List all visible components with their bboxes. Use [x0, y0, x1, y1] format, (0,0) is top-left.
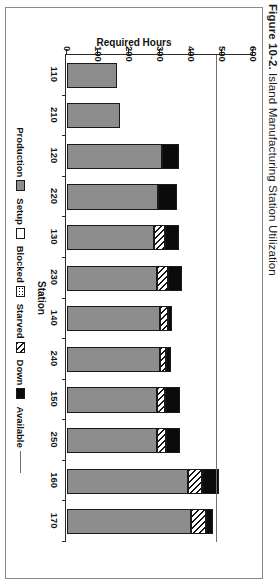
- bar-segment-down: [165, 225, 179, 250]
- category-axis-tick: [62, 95, 66, 96]
- bar-segment-production: [67, 347, 160, 372]
- category-axis-tick-label: 140: [49, 310, 60, 326]
- category-axis-tick-label: 120: [49, 148, 60, 164]
- legend-label: Production: [15, 127, 26, 177]
- category-axis-tick-label: 160: [49, 472, 60, 488]
- figure-caption: Island Manufacturing Station Utilization: [267, 73, 279, 276]
- category-axis-tick-label: 130: [49, 229, 60, 245]
- bar[interactable]: [67, 63, 117, 88]
- legend-swatch-starved: [16, 342, 25, 353]
- category-axis-tick-label: 210: [49, 107, 60, 123]
- category-axis-tick: [62, 379, 66, 380]
- bar[interactable]: [67, 103, 120, 128]
- bar-segment-production: [67, 225, 154, 250]
- legend-swatch-blocked: [16, 286, 25, 297]
- bar-segment-down: [166, 428, 180, 453]
- bar-segment-down: [165, 387, 181, 412]
- category-axis-tick: [62, 500, 66, 501]
- available-reference-line: [216, 55, 217, 542]
- bar-segment-production: [67, 469, 188, 494]
- bar[interactable]: [67, 469, 219, 494]
- category-axis-tick: [62, 257, 66, 258]
- category-axis-tick-label: 110: [49, 67, 60, 82]
- category-axis-tick: [62, 419, 66, 420]
- bar-segment-starved: [160, 306, 168, 331]
- legend-item[interactable]: Blocked: [15, 246, 26, 297]
- legend-item[interactable]: Starved: [15, 304, 26, 353]
- bar-segment-down: [207, 509, 213, 534]
- bar[interactable]: [67, 144, 179, 169]
- category-axis-tick-label: 220: [49, 188, 60, 204]
- bar[interactable]: [67, 225, 179, 250]
- category-axis-tick: [62, 298, 66, 299]
- legend-swatch-setup: [16, 228, 25, 239]
- figure-page: Figure 10-2. Island Manufacturing Statio…: [0, 0, 280, 586]
- bar[interactable]: [67, 184, 177, 209]
- category-axis-tick-label: 250: [49, 432, 60, 448]
- legend-swatch-production: [16, 180, 25, 191]
- figure: Figure 10-2. Island Manufacturing Statio…: [0, 0, 280, 586]
- bar-segment-down: [166, 347, 171, 372]
- legend-item[interactable]: Down: [15, 360, 26, 400]
- bar-segment-production: [67, 509, 191, 534]
- bar-segment-production: [67, 266, 157, 291]
- legend-swatch-available: [20, 451, 21, 473]
- category-axis-tick: [62, 541, 66, 542]
- bar-segment-production: [67, 144, 162, 169]
- category-axis-tick: [62, 216, 66, 217]
- legend-label: Available: [15, 406, 26, 447]
- legend-label: Setup: [15, 198, 26, 224]
- legend-label: Starved: [15, 304, 26, 339]
- bar-segment-starved: [188, 469, 202, 494]
- category-axis-tick-label: 170: [49, 513, 60, 529]
- bar[interactable]: [67, 306, 172, 331]
- legend-item[interactable]: Production: [15, 127, 26, 191]
- category-axis-tick: [62, 460, 66, 461]
- bar[interactable]: [67, 509, 213, 534]
- category-axis-tick: [62, 176, 66, 177]
- bar-segment-production: [67, 306, 160, 331]
- chart-legend: ProductionSetupBlockedStarvedDownAvailab…: [15, 54, 26, 546]
- bar-segment-down: [168, 306, 173, 331]
- legend-label: Down: [15, 360, 26, 386]
- bar-segment-production: [67, 103, 120, 128]
- bar-segment-production: [67, 428, 157, 453]
- bar-segment-starved: [157, 428, 166, 453]
- bar-segment-starved: [154, 225, 165, 250]
- plot-area: [67, 55, 253, 542]
- bar-segment-production: [67, 387, 157, 412]
- bar-segment-starved: [157, 387, 165, 412]
- legend-item[interactable]: Available: [15, 406, 26, 472]
- category-axis-tick-label: 240: [49, 350, 60, 366]
- legend-swatch-down: [16, 388, 25, 399]
- bar-segment-down: [162, 144, 179, 169]
- figure-title: Figure 10-2. Island Manufacturing Statio…: [267, 4, 279, 544]
- bar[interactable]: [67, 387, 180, 412]
- bar-segment-starved: [157, 266, 168, 291]
- chart-frame: Required Hours 0100200300400500600 11021…: [5, 7, 263, 579]
- bar-segment-down: [158, 184, 177, 209]
- bar-segment-production: [67, 184, 158, 209]
- bar[interactable]: [67, 428, 180, 453]
- category-axis-title: Station: [36, 54, 47, 542]
- rotated-content: Figure 10-2. Island Manufacturing Statio…: [0, 0, 280, 586]
- bar-segment-down: [168, 266, 182, 291]
- bar-segment-production: [67, 63, 117, 88]
- figure-number: Figure 10-2.: [267, 4, 279, 70]
- bar[interactable]: [67, 347, 171, 372]
- bar[interactable]: [67, 266, 182, 291]
- category-axis-tick: [62, 338, 66, 339]
- bar-segment-starved: [191, 509, 207, 534]
- legend-item[interactable]: Setup: [15, 198, 26, 238]
- category-axis-tick-label: 150: [49, 391, 60, 407]
- legend-label: Blocked: [15, 246, 26, 283]
- category-axis-tick-label: 230: [49, 269, 60, 285]
- category-axis-tick: [62, 135, 66, 136]
